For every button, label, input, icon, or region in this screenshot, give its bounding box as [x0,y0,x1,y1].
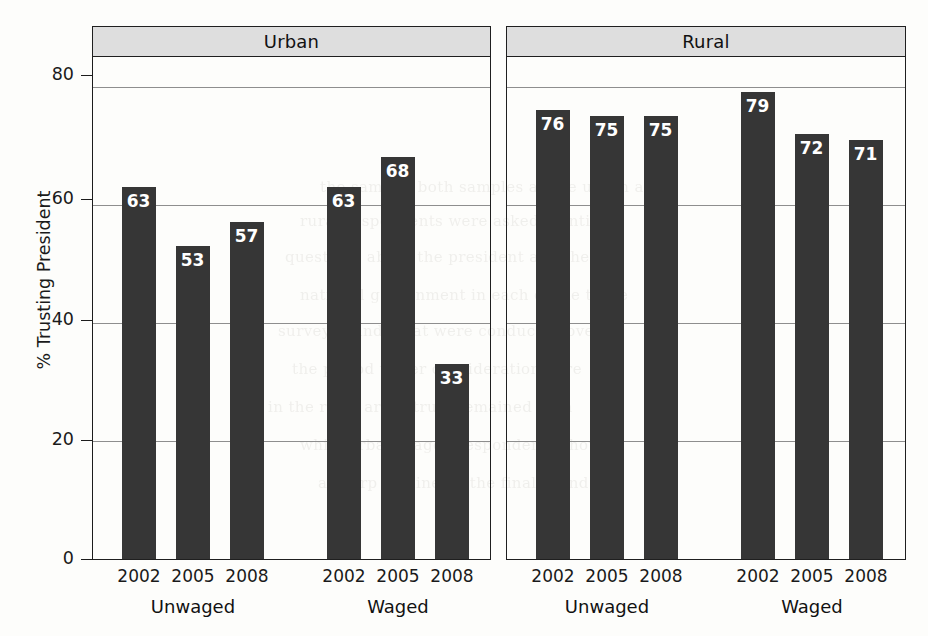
x-tick-label: 2002 [728,566,788,586]
bar: 72 [795,134,829,559]
y-tick-label-0: 0 [30,548,74,568]
x-tick-label: 2008 [422,566,482,586]
bar-value-label: 57 [230,226,264,246]
bar-value-label: 33 [435,368,469,388]
y-tick-mark-40 [81,320,92,321]
panel-strip-rural: Rural [506,26,906,57]
x-tick-label: 2002 [109,566,169,586]
gridline-80 [507,87,905,88]
bar: 53 [176,246,210,559]
bar: 76 [536,110,570,559]
plot-area-rural: 767575797271 [506,57,906,560]
x-group-label: Waged [742,596,882,617]
bar-value-label: 63 [122,191,156,211]
x-tick-label: 2008 [631,566,691,586]
x-tick-label: 2005 [782,566,842,586]
bar-value-label: 79 [741,96,775,116]
x-tick-label: 2005 [163,566,223,586]
x-group-label: Unwaged [123,596,263,617]
bar: 75 [590,116,624,559]
y-tick-label-80: 80 [30,64,74,84]
bar-value-label: 63 [327,191,361,211]
chart-figure: the same in both samples as the urban an… [0,0,928,636]
y-axis-line [92,57,93,560]
x-group-label: Unwaged [537,596,677,617]
x-tick-label: 2008 [217,566,277,586]
y-tick-mark-60 [81,199,92,200]
panel-rural: Rural 767575797271 [506,26,906,560]
bar-value-label: 71 [849,144,883,164]
bar: 33 [435,364,469,559]
bar: 63 [327,187,361,559]
bar: 79 [741,92,775,559]
bar-value-label: 53 [176,250,210,270]
panel-strip-urban: Urban [92,26,491,57]
x-tick-label: 2005 [368,566,428,586]
bar-value-label: 75 [590,120,624,140]
bar: 57 [230,222,264,559]
y-tick-label-60: 60 [30,188,74,208]
y-tick-mark-20 [81,440,92,441]
bar-value-label: 75 [644,120,678,140]
y-tick-label-40: 40 [30,309,74,329]
bar: 71 [849,140,883,559]
panel-urban: Urban 635357636833 [92,26,491,560]
bar-value-label: 72 [795,138,829,158]
x-tick-label: 2002 [523,566,583,586]
x-group-label: Waged [328,596,468,617]
bar-value-label: 68 [381,161,415,181]
plot-area-urban: 635357636833 [92,57,491,560]
bar: 63 [122,187,156,559]
x-tick-label: 2002 [314,566,374,586]
x-tick-label: 2008 [836,566,896,586]
bar-value-label: 76 [536,114,570,134]
strip-label-rural: Rural [682,31,730,52]
y-tick-mark-80 [81,75,92,76]
strip-label-urban: Urban [264,31,319,52]
gridline-80 [93,87,490,88]
x-tick-label: 2005 [577,566,637,586]
y-tick-label-20: 20 [30,429,74,449]
bar: 68 [381,157,415,559]
y-tick-mark-0 [81,559,92,560]
bar: 75 [644,116,678,559]
